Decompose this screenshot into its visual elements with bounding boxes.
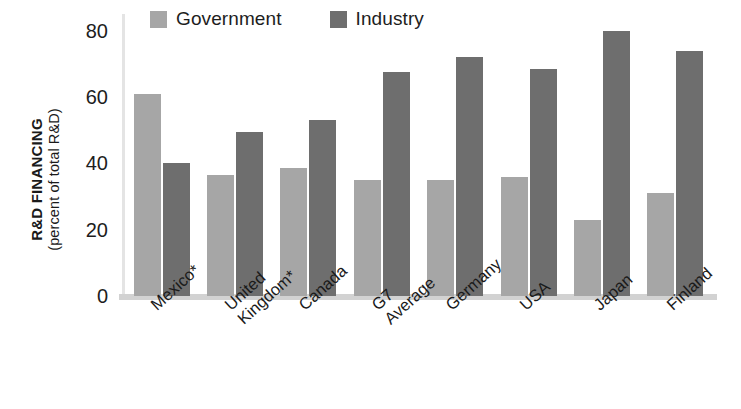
bar-industry	[456, 57, 483, 296]
y-tick-label-60: 60	[86, 85, 108, 108]
bar-group	[198, 14, 271, 296]
bar-industry	[383, 72, 410, 296]
bar-government	[207, 175, 234, 296]
y-axis-title-main: R&D FINANCING	[28, 119, 45, 242]
bar-industry	[603, 31, 630, 296]
bar-group	[272, 14, 345, 296]
plot-area: 020406080	[122, 14, 712, 296]
y-tick-label-40: 40	[86, 152, 108, 175]
bar-government	[647, 193, 674, 296]
bar-industry	[676, 51, 703, 297]
bar-chart: Government Industry R&D FINANCING (perce…	[0, 0, 741, 409]
bar-groups	[125, 14, 712, 296]
bar-government	[354, 180, 381, 296]
bar-industry	[530, 69, 557, 296]
x-axis-category-labels: Mexico*United Kingdom*CanadaG7 AverageGe…	[125, 300, 715, 406]
y-tick-label-20: 20	[86, 218, 108, 241]
bar-group	[639, 14, 712, 296]
y-tick-label-0: 0	[97, 285, 108, 308]
bar-government	[574, 220, 601, 296]
y-tick-label-80: 80	[86, 19, 108, 42]
bar-group	[345, 14, 418, 296]
bar-group	[492, 14, 565, 296]
bar-government	[134, 94, 161, 296]
bar-government	[501, 177, 528, 296]
y-axis-title: R&D FINANCING (percent of total R&D)	[18, 60, 72, 300]
bar-group	[125, 14, 198, 296]
bar-group	[419, 14, 492, 296]
y-axis-title-sub: (percent of total R&D)	[45, 109, 61, 251]
bar-group	[565, 14, 638, 296]
